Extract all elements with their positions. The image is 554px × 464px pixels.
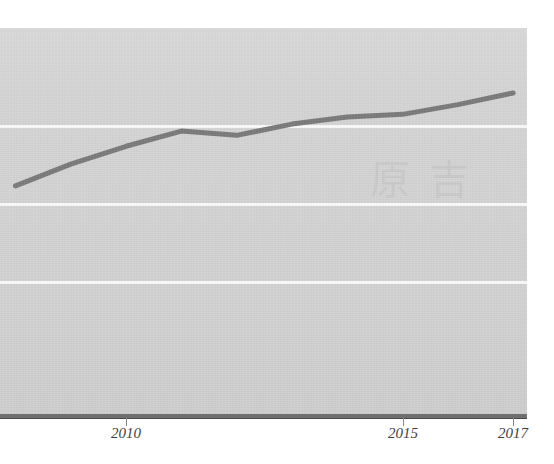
series-line-trend (0, 28, 527, 417)
chart-root: 原 吉 2010 2015 2017 (0, 0, 554, 464)
plot-area: 原 吉 (0, 28, 527, 417)
x-tick-label-2010: 2010 (111, 425, 141, 442)
x-tick-label-2015: 2015 (388, 425, 418, 442)
x-axis-line (0, 414, 527, 419)
x-tick-label-2017: 2017 (498, 425, 528, 442)
